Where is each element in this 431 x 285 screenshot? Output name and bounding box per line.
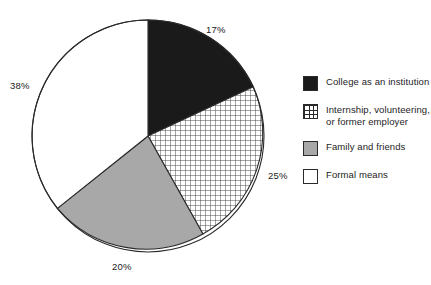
legend-item-college-as-an-institution: College as an institution: [303, 76, 431, 91]
legend-label-family-and-friends: Family and friends: [326, 141, 405, 153]
legend-label-internship-volunteering-or-former-employer: Internship, volunteering, or former empl…: [326, 104, 431, 128]
legend-item-family-and-friends: Family and friends: [303, 141, 431, 156]
legend-swatch-solid-white-icon: [303, 169, 318, 184]
pie-chart-figure: 17% 25% 20% 38% College as an institutio…: [0, 0, 431, 285]
pie-label-38-percent: 38%: [10, 80, 30, 91]
legend-label-formal-means: Formal means: [326, 169, 388, 181]
legend-swatch-solid-black-icon: [303, 76, 318, 91]
legend-item-internship-volunteering-or-former-employer: Internship, volunteering, or former empl…: [303, 104, 431, 128]
legend-swatch-crosshatch-icon: [303, 104, 318, 119]
legend: College as an institution Internship, vo…: [303, 76, 431, 197]
legend-swatch-solid-gray-icon: [303, 141, 318, 156]
legend-label-college-as-an-institution: College as an institution: [326, 76, 429, 88]
pie-label-25-percent: 25%: [268, 170, 288, 181]
legend-item-formal-means: Formal means: [303, 169, 431, 184]
pie-label-20-percent: 20%: [112, 261, 132, 272]
pie-label-17-percent: 17%: [206, 24, 226, 35]
